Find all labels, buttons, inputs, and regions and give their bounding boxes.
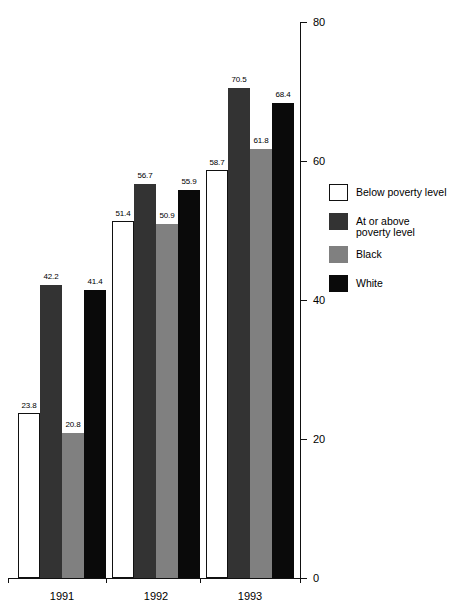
bar-group-1991: 23.8 42.2 20.8 41.4 xyxy=(18,22,106,578)
bar-1992-black: 50.9 xyxy=(156,224,178,578)
bar-chart: 23.8 42.2 20.8 41.4 51.4 56.7 50.9 xyxy=(0,0,461,612)
bar-value-label: 20.8 xyxy=(65,420,80,430)
legend-item-at-or-above-poverty-level[interactable]: At or above poverty level xyxy=(329,213,415,238)
legend-swatch-icon xyxy=(329,213,348,230)
bar-group-1992: 51.4 56.7 50.9 55.9 xyxy=(112,22,200,578)
bar-value-label: 23.8 xyxy=(21,401,36,411)
y-axis-label-20: 20 xyxy=(313,434,325,445)
bar-group-1993: 58.7 70.5 61.8 68.4 xyxy=(206,22,294,578)
legend-item-below-poverty-level[interactable]: Below poverty level xyxy=(329,184,446,201)
bar-value-label: 51.4 xyxy=(115,209,130,219)
bar-1992-at-or-above-poverty-level: 56.7 xyxy=(134,184,156,578)
legend-swatch-icon xyxy=(329,275,348,292)
bar-value-label: 56.7 xyxy=(137,171,152,181)
legend-item-label: White xyxy=(356,275,383,289)
bar-1991-white: 41.4 xyxy=(84,290,106,578)
x-axis-line xyxy=(8,578,307,579)
bar-1992-below-poverty-level: 51.4 xyxy=(112,221,134,578)
bar-value-label: 58.7 xyxy=(209,158,224,168)
x-axis-label-1991: 1991 xyxy=(50,590,74,602)
plot-area: 23.8 42.2 20.8 41.4 51.4 56.7 50.9 xyxy=(0,0,300,612)
x-axis-label-1992: 1992 xyxy=(144,590,168,602)
y-axis-tick-40 xyxy=(300,300,307,301)
y-axis-tick-20 xyxy=(300,439,307,440)
x-axis-label-1993: 1993 xyxy=(238,590,262,602)
bar-1991-black: 20.8 xyxy=(62,433,84,578)
bar-1993-white: 68.4 xyxy=(272,103,294,578)
y-axis-tick-80 xyxy=(300,22,307,23)
bar-1991-below-poverty-level: 23.8 xyxy=(18,413,40,578)
x-axis-tick-left xyxy=(8,578,9,583)
legend-item-label: Black xyxy=(356,246,382,260)
bar-1991-at-or-above-poverty-level: 42.2 xyxy=(40,285,62,578)
legend-item-label: Below poverty level xyxy=(356,184,446,198)
legend-item-white[interactable]: White xyxy=(329,275,383,292)
legend-swatch-icon xyxy=(329,184,348,201)
y-axis-label-80: 80 xyxy=(313,17,325,28)
y-axis-label-40: 40 xyxy=(313,295,325,306)
bar-value-label: 70.5 xyxy=(231,75,246,85)
x-axis-tick-right xyxy=(300,578,301,583)
y-axis-tick-60 xyxy=(300,161,307,162)
bar-value-label: 68.4 xyxy=(275,90,290,100)
legend-item-label: At or above poverty level xyxy=(356,213,415,238)
bar-value-label: 50.9 xyxy=(159,211,174,221)
bar-1993-at-or-above-poverty-level: 70.5 xyxy=(228,88,250,578)
bar-1993-below-poverty-level: 58.7 xyxy=(206,170,228,578)
bar-value-label: 61.8 xyxy=(253,136,268,146)
legend-item-black[interactable]: Black xyxy=(329,246,382,263)
bar-value-label: 55.9 xyxy=(181,177,196,187)
legend-swatch-icon xyxy=(329,246,348,263)
y-axis-label-0: 0 xyxy=(313,573,319,584)
bar-value-label: 42.2 xyxy=(43,272,58,282)
bar-value-label: 41.4 xyxy=(87,277,102,287)
bar-1992-white: 55.9 xyxy=(178,190,200,579)
y-axis-label-60: 60 xyxy=(313,156,325,167)
x-axis-tick-1 xyxy=(106,578,107,583)
x-axis-tick-2 xyxy=(200,578,201,583)
bar-1993-black: 61.8 xyxy=(250,149,272,579)
